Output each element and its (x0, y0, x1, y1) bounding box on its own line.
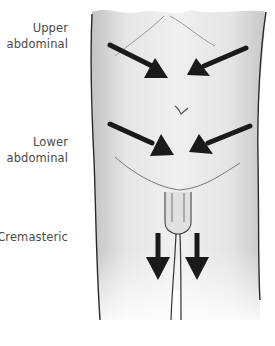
label-cremasteric: Cremasteric (0, 229, 68, 245)
label-lower-line2: abdominal (6, 150, 68, 166)
label-lower-abdominal: Lower abdominal (6, 134, 68, 166)
label-cremasteric-line1: Cremasteric (0, 229, 68, 245)
label-upper-line1: Upper (6, 20, 68, 36)
label-upper-abdominal: Upper abdominal (6, 20, 68, 52)
genitalia-outline (165, 192, 191, 234)
label-upper-line2: abdominal (6, 36, 68, 52)
label-lower-line1: Lower (6, 134, 68, 150)
